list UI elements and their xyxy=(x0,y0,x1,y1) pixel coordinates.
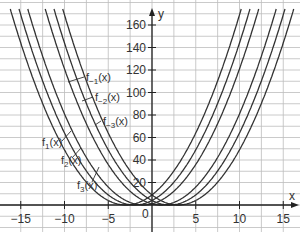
y-tick-label: 160 xyxy=(126,18,146,32)
label-leader xyxy=(62,131,71,141)
y-axis-label: y xyxy=(158,7,164,21)
curve-label: f2(x) xyxy=(61,154,81,169)
y-tick-label: 100 xyxy=(126,86,146,100)
y-tick-label: 140 xyxy=(126,41,146,55)
x-tick-label: −5 xyxy=(101,212,115,226)
y-tick-label: 60 xyxy=(133,131,147,145)
x-tick-label: 10 xyxy=(233,212,247,226)
grid xyxy=(0,0,300,232)
x-axis-label: x xyxy=(289,189,295,203)
curve-label: f3(x) xyxy=(77,179,97,194)
curve-f3(x) xyxy=(63,9,294,205)
ticks: −15−10−55101520406080100120140160 xyxy=(11,18,291,226)
x-tick-label: −10 xyxy=(54,212,75,226)
y-tick-label: 80 xyxy=(133,108,147,122)
y-tick-label: 40 xyxy=(133,153,147,167)
label-leader xyxy=(95,121,101,125)
curve-label: f−3(x) xyxy=(103,115,128,130)
parabola-family-chart: x y 0 −15−10−55101520406080100120140160 … xyxy=(0,0,300,232)
y-tick-label: 20 xyxy=(133,176,147,190)
y-tick-label: 120 xyxy=(126,63,146,77)
x-tick-label: −15 xyxy=(11,212,32,226)
curve-f−3(x) xyxy=(10,9,241,205)
x-tick-label: 15 xyxy=(277,212,291,226)
origin-label: 0 xyxy=(142,207,149,221)
curve-label: f−1(x) xyxy=(86,71,111,86)
y-axis-arrow-icon xyxy=(149,8,155,16)
x-tick-label: 5 xyxy=(192,212,199,226)
